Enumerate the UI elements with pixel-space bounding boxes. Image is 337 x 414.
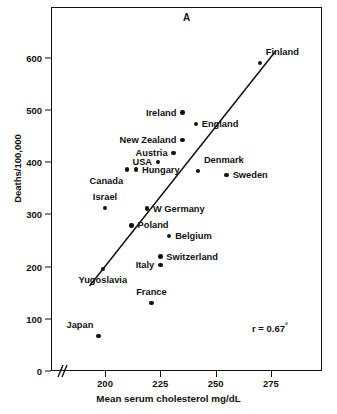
- correlation-superscript: °: [285, 322, 288, 329]
- regression-line-layer: [0, 0, 337, 414]
- correlation-value: r = 0.67: [252, 323, 285, 334]
- regression-line: [90, 52, 276, 286]
- correlation-annotation: r = 0.67°: [252, 322, 288, 334]
- scatter-plot-figure: A Deaths/100,000 Mean serum cholesterol …: [0, 0, 337, 414]
